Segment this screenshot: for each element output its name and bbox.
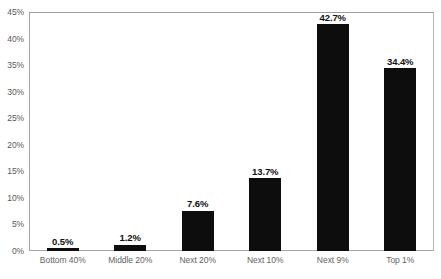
bar-group: 7.6%	[164, 12, 232, 251]
bar-value-label: 13.7%	[252, 167, 278, 177]
y-axis-tick-label: 15%	[0, 167, 24, 176]
bar-value-label: 0.5%	[52, 237, 73, 247]
y-axis-tick-label: 10%	[0, 194, 24, 203]
x-axis-tick-label: Next 9%	[317, 255, 349, 265]
y-axis-tick-label: 45%	[0, 8, 24, 17]
x-axis-tick-label: Next 20%	[180, 255, 216, 265]
bar[interactable]	[317, 24, 349, 251]
bar-group: 13.7%	[232, 12, 300, 251]
x-axis-tick-label: Middle 20%	[108, 255, 152, 265]
bar-value-label: 34.4%	[387, 57, 413, 67]
bar[interactable]	[384, 68, 416, 251]
y-axis-tick-label: 5%	[0, 220, 24, 229]
y-axis-tick-label: 20%	[0, 141, 24, 150]
bar[interactable]	[182, 211, 214, 251]
bar-value-label: 42.7%	[320, 13, 346, 23]
x-axis-tick-label: Bottom 40%	[40, 255, 86, 265]
bars-layer: 0.5% 1.2% 7.6% 13.7% 42.7% 34.4%	[29, 12, 434, 251]
x-axis-tick-label: Top 1%	[386, 255, 414, 265]
y-axis-tick-label: 25%	[0, 114, 24, 123]
bar[interactable]	[249, 178, 281, 251]
bar-group: 42.7%	[299, 12, 367, 251]
y-axis-tick-label: 35%	[0, 61, 24, 70]
bar-group: 34.4%	[367, 12, 435, 251]
bar[interactable]	[47, 248, 79, 251]
bar-group: 1.2%	[97, 12, 165, 251]
bar[interactable]	[114, 245, 146, 251]
bar-group: 0.5%	[29, 12, 97, 251]
bar-chart: 45% 40% 35% 30% 25% 20% 15% 10% 5% 0% 0.…	[0, 0, 441, 279]
y-axis-tick-label: 30%	[0, 87, 24, 96]
y-axis-tick-label: 0%	[0, 247, 24, 256]
bar-value-label: 7.6%	[187, 199, 208, 209]
y-axis-tick-label: 40%	[0, 34, 24, 43]
y-axis: 45% 40% 35% 30% 25% 20% 15% 10% 5% 0%	[0, 0, 27, 279]
x-axis-tick-label: Next 10%	[247, 255, 283, 265]
x-axis: Bottom 40% Middle 20% Next 20% Next 10% …	[29, 255, 434, 275]
bar-value-label: 1.2%	[120, 233, 141, 243]
